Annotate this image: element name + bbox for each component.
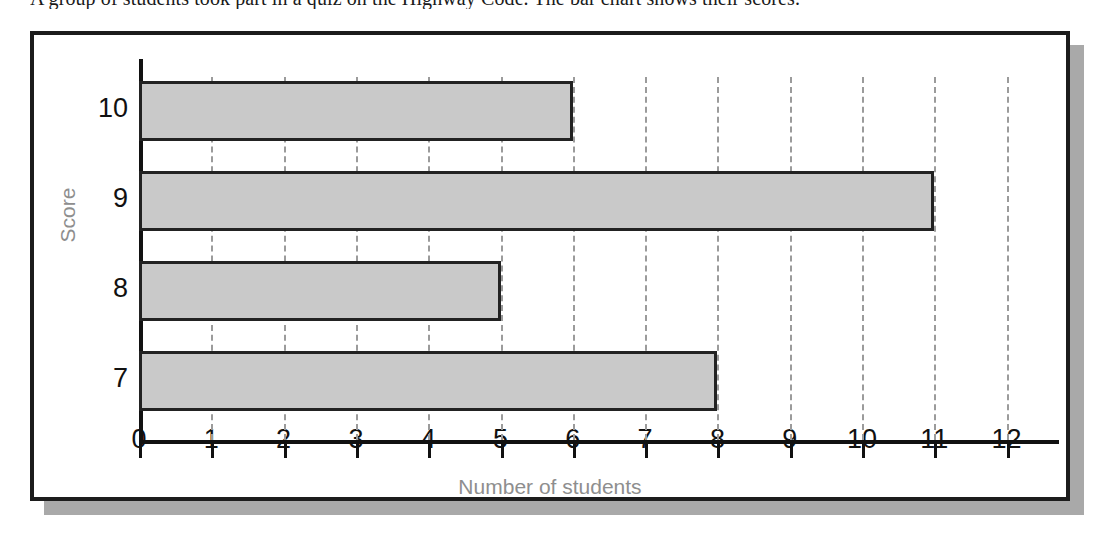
bar — [139, 261, 501, 321]
plot-area — [139, 59, 1059, 449]
x-tick-mark — [862, 444, 865, 458]
bar — [139, 351, 717, 411]
x-tick-mark — [790, 444, 793, 458]
chart-figure-frame: Score Number of students 10987 012345678… — [30, 31, 1070, 501]
gridline — [934, 77, 936, 440]
x-tick-mark — [211, 444, 214, 458]
x-tick-mark — [356, 444, 359, 458]
gridline — [862, 77, 864, 440]
x-tick-mark — [717, 444, 720, 458]
x-tick-mark — [284, 444, 287, 458]
x-tick-mark — [501, 444, 504, 458]
x-tick-mark — [645, 444, 648, 458]
question-text: A group of students took part in a quiz … — [30, 0, 1090, 9]
x-tick-mark — [428, 444, 431, 458]
x-tick-mark — [573, 444, 576, 458]
gridline — [790, 77, 792, 440]
x-tick-mark — [139, 444, 142, 458]
bar — [139, 171, 934, 231]
x-tick-mark — [1007, 444, 1010, 458]
bar-chart: Score Number of students 10987 012345678… — [34, 35, 1066, 497]
gridline — [1007, 77, 1009, 440]
x-axis-line — [139, 440, 1059, 444]
x-tick-mark — [934, 444, 937, 458]
bar — [139, 81, 573, 141]
gridline — [717, 77, 719, 440]
